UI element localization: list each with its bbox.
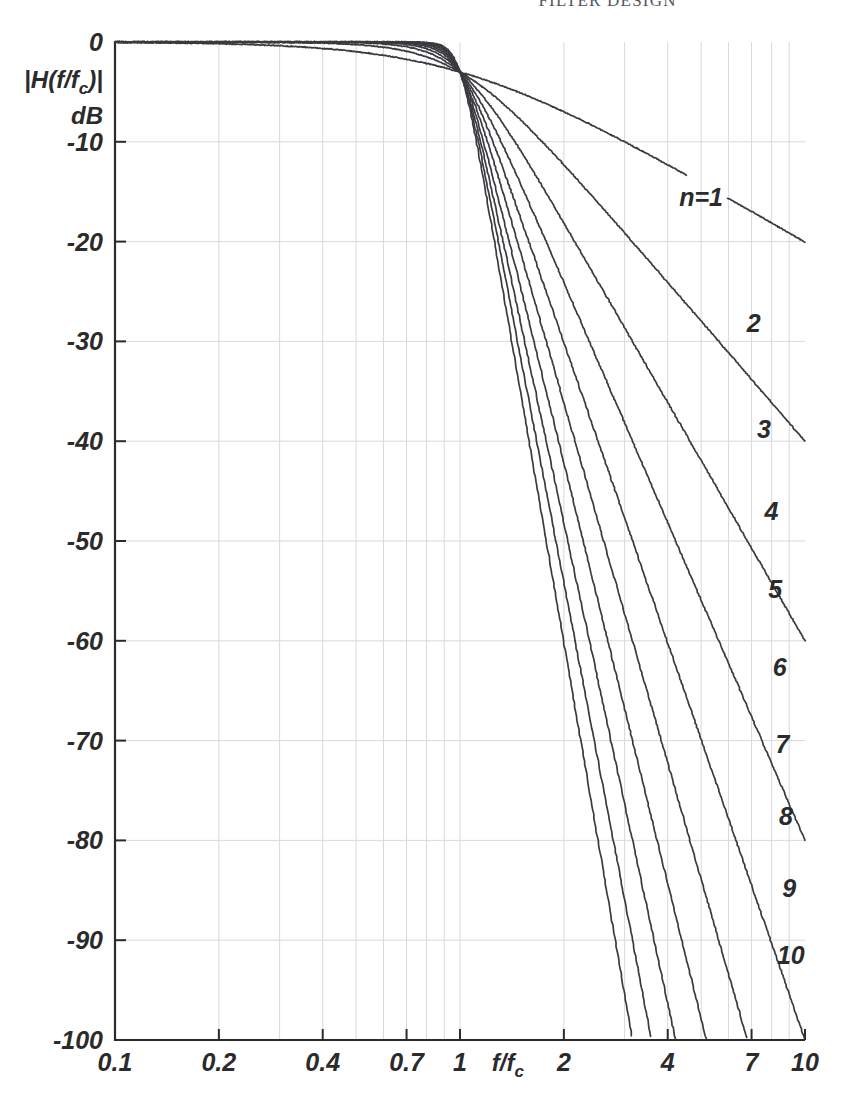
- curve-tail-n1: [728, 198, 805, 242]
- y-tick-label: -80: [67, 826, 103, 854]
- curve-n7: [115, 42, 706, 1039]
- x-tick-label: 1: [453, 1048, 467, 1076]
- y-tick-label: -60: [67, 627, 103, 655]
- x-tick-labels: 0.10.20.40.7124710: [98, 1048, 819, 1076]
- curve-n9: [115, 42, 651, 1037]
- x-tick-label: 7: [745, 1048, 760, 1076]
- curve-label-n6: 6: [773, 653, 788, 681]
- curve-label-n4: 4: [764, 497, 779, 525]
- y-axis-title-line1: |H(f/fc)|: [24, 66, 103, 98]
- curve-label-n1: n=1: [679, 183, 723, 211]
- curve-label-n8: 8: [779, 802, 793, 830]
- y-tick-label: -10: [67, 128, 103, 156]
- chart-svg: 0.10.20.40.71247100-10-20-30-40-50-60-70…: [0, 0, 843, 1101]
- x-axis-title: f/fc: [492, 1049, 525, 1081]
- x-tick-label: 4: [660, 1048, 675, 1076]
- y-axis-title-line2: dB: [71, 102, 103, 129]
- curve-label-n3: 3: [757, 415, 771, 443]
- x-tick-label: 0.7: [389, 1048, 425, 1076]
- x-tick-label: 2: [556, 1048, 571, 1076]
- curve-n10: [115, 42, 632, 1036]
- x-tick-label: 0.2: [201, 1048, 236, 1076]
- y-tick-label: 0: [89, 28, 103, 56]
- y-tick-label: -20: [67, 228, 103, 256]
- curve-n1: [115, 42, 687, 175]
- y-tick-label: -50: [67, 527, 103, 555]
- butterworth-magnitude-chart: 0.10.20.40.71247100-10-20-30-40-50-60-70…: [0, 0, 843, 1101]
- x-tick-label: 10: [791, 1048, 819, 1076]
- curve-n8: [115, 42, 675, 1039]
- curve-label-n5: 5: [768, 575, 783, 603]
- y-tick-label: -70: [67, 727, 103, 755]
- curve-labels: n=12345678910: [679, 183, 805, 969]
- curve-label-n7: 7: [775, 730, 790, 758]
- curve-n6: [115, 42, 747, 1038]
- y-tick-labels: 0-10-20-30-40-50-60-70-80-90-100: [53, 28, 103, 1054]
- x-tick-label: 0.4: [305, 1048, 340, 1076]
- y-tick-label: -90: [67, 926, 103, 954]
- curve-label-n9: 9: [782, 874, 796, 902]
- y-tick-label: -100: [53, 1026, 103, 1054]
- y-tick-label: -30: [67, 327, 103, 355]
- y-tick-label: -40: [67, 427, 103, 455]
- curve-label-n2: 2: [746, 309, 761, 337]
- figure-page: FILTER DESIGN 0.10.20.40.71247100-10-20-…: [0, 0, 843, 1101]
- curve-label-n10: 10: [777, 941, 805, 969]
